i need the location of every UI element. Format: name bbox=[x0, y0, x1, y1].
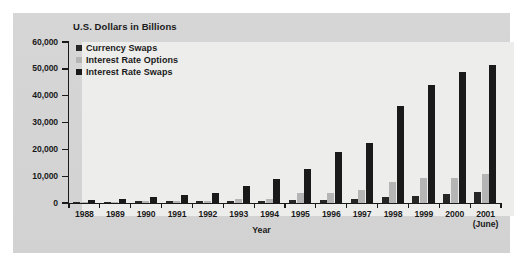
x-axis-tick-mark bbox=[161, 204, 162, 208]
y-axis-tick-mark bbox=[62, 176, 68, 177]
x-axis-tick-mark bbox=[500, 204, 501, 208]
x-axis-tick-label: 1990 bbox=[131, 209, 162, 219]
x-axis-tick-mark bbox=[99, 204, 100, 208]
y-axis-tick-label: 60,000 bbox=[32, 37, 58, 47]
x-axis-tick-mark bbox=[439, 204, 440, 208]
x-axis-tick-label: 1995 bbox=[285, 209, 316, 219]
y-axis-tick-label: 30,000 bbox=[32, 117, 58, 127]
x-axis-tick-label: 1996 bbox=[316, 209, 347, 219]
x-axis-tick-mark bbox=[223, 204, 224, 208]
legend-item-label: Interest Rate Swaps bbox=[86, 67, 172, 77]
legend-item-label: Currency Swaps bbox=[86, 43, 157, 53]
legend-item: Interest Rate Options bbox=[76, 54, 226, 65]
x-axis-tick-mark bbox=[470, 204, 471, 208]
x-axis-tick-mark bbox=[377, 204, 378, 208]
x-axis-tick-mark bbox=[130, 204, 131, 208]
chart-figure: U.S. Dollars in Billions Currency SwapsI… bbox=[0, 0, 523, 265]
x-axis-tick-label: 2000 bbox=[439, 209, 470, 219]
y-axis-line bbox=[68, 41, 69, 204]
y-axis-tick-label: 50,000 bbox=[32, 63, 58, 73]
x-axis-tick-label: 1993 bbox=[223, 209, 254, 219]
y-axis-tick-label: 20,000 bbox=[32, 144, 58, 154]
x-axis-tick-mark bbox=[408, 204, 409, 208]
chart-legend: Currency SwapsInterest Rate OptionsInter… bbox=[76, 42, 226, 78]
x-axis-tick-label: 1994 bbox=[254, 209, 285, 219]
y-axis-tick-mark bbox=[62, 149, 68, 150]
x-axis-tick-label: 1988 bbox=[69, 209, 100, 219]
x-axis-tick-mark bbox=[284, 204, 285, 208]
legend-swatch-icon bbox=[76, 57, 82, 63]
legend-swatch-icon bbox=[76, 45, 82, 51]
y-axis-tick-mark bbox=[62, 95, 68, 96]
y-axis-tick-label: 40,000 bbox=[32, 90, 58, 100]
x-axis-tick-label: 1998 bbox=[378, 209, 409, 219]
y-axis-tick-mark bbox=[62, 68, 68, 69]
y-axis-tick-label: 10,000 bbox=[32, 171, 58, 181]
x-axis-tick-label: 2001 bbox=[470, 209, 501, 219]
legend-item: Interest Rate Swaps bbox=[76, 66, 226, 77]
legend-item: Currency Swaps bbox=[76, 42, 226, 53]
legend-swatch-icon bbox=[76, 69, 82, 75]
x-axis-tick-mark bbox=[315, 204, 316, 208]
x-axis-tick-mark bbox=[68, 204, 69, 208]
x-axis-tick-mark bbox=[254, 204, 255, 208]
y-axis-tick-mark bbox=[62, 122, 68, 123]
y-axis-tick-mark bbox=[62, 41, 68, 42]
y-axis-tick-mark bbox=[62, 202, 68, 203]
unit-note-label: U.S. Dollars in Billions bbox=[73, 21, 177, 32]
x-axis-tick-mark bbox=[192, 204, 193, 208]
x-axis-tick-mark bbox=[346, 204, 347, 208]
x-axis-tick-label: 1989 bbox=[100, 209, 131, 219]
x-axis-tick-label: 1992 bbox=[192, 209, 223, 219]
y-axis-tick-label: 0 bbox=[53, 198, 58, 208]
x-axis-tick-label: 1999 bbox=[408, 209, 439, 219]
legend-item-label: Interest Rate Options bbox=[86, 55, 178, 65]
x-axis-tick-label: 1991 bbox=[162, 209, 193, 219]
x-axis-tick-label: 1997 bbox=[347, 209, 378, 219]
x-axis-title: Year bbox=[0, 225, 523, 235]
